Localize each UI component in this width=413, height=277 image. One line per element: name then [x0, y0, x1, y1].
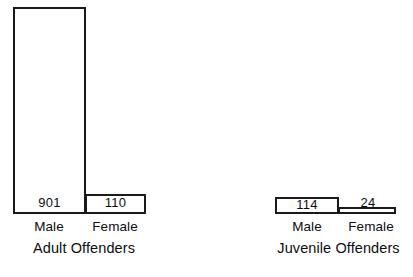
category-label-adult-female: Female	[80, 220, 150, 234]
bar-adult-male	[13, 7, 86, 214]
category-label-juvenile-male: Male	[273, 220, 341, 234]
category-label-adult-male: Male	[10, 220, 88, 234]
bar-chart: 901 110 Male Female Adult Offenders 114 …	[0, 0, 413, 277]
group-label-adult-offenders: Adult Offenders	[8, 241, 160, 256]
clipped-caption	[34, 268, 154, 277]
value-label-juvenile-male: 114	[275, 198, 339, 211]
category-label-juvenile-female: Female	[338, 220, 404, 234]
group-label-juvenile-offenders: Juvenile Offenders	[266, 241, 411, 256]
value-label-adult-male: 901	[13, 196, 86, 209]
value-label-adult-female: 110	[85, 196, 146, 209]
value-label-juvenile-female: 24	[340, 196, 396, 209]
